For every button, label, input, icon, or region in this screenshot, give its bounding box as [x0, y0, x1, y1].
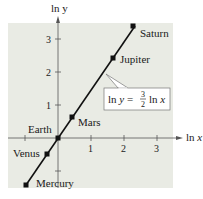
chart: ln x ln y 1 2 3 1 2 3 Mercury Venus Eart… [0, 0, 203, 199]
y-tick-3: 3 [46, 34, 51, 45]
y-axis-arrow-icon [56, 16, 60, 23]
equation-rhs: ln x [149, 93, 165, 105]
point-saturn [131, 24, 136, 29]
x-axis-arrow-icon [176, 136, 183, 140]
y-axis-label: ln y [51, 2, 68, 14]
point-venus [45, 152, 50, 157]
equation-lhs: ln y = [108, 93, 133, 105]
label-saturn: Saturn [140, 27, 169, 39]
point-mars [70, 115, 75, 120]
point-jupiter [111, 56, 116, 61]
label-mercury: Mercury [36, 177, 74, 189]
x-tick-2: 2 [121, 143, 126, 154]
equation-numerator: 3 [141, 90, 145, 99]
label-venus: Venus [13, 147, 40, 159]
point-mercury [24, 183, 29, 188]
y-tick-1: 1 [46, 100, 51, 111]
label-earth: Earth [28, 123, 52, 135]
x-tick-1: 1 [88, 143, 93, 154]
x-axis-label: ln x [186, 131, 202, 143]
point-earth [56, 136, 61, 141]
y-tick-2: 2 [46, 67, 51, 78]
label-mars: Mars [78, 116, 101, 128]
x-tick-3: 3 [154, 143, 159, 154]
equation-denominator: 2 [141, 100, 145, 109]
label-jupiter: Jupiter [120, 53, 150, 65]
